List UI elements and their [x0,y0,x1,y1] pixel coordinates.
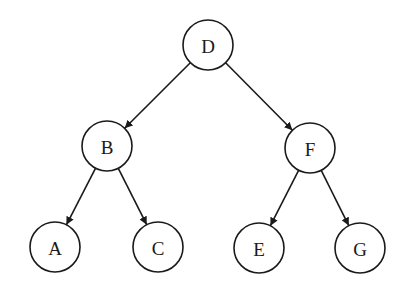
node-f-label: F [305,139,316,160]
tree-svg: D B F A C E G [0,0,412,289]
edge-d-b [125,63,191,129]
edge-f-e [270,170,298,225]
edge-d-f [226,63,293,130]
nodes-layer: D B F A C E G [30,20,385,273]
node-g-label: G [353,239,367,260]
edge-f-g [321,170,349,225]
node-e: E [234,223,284,273]
node-d-label: D [201,36,215,57]
node-a: A [30,222,80,272]
node-f: F [285,123,335,173]
node-b: B [82,121,132,171]
node-c: C [133,222,183,272]
node-g: G [335,223,385,273]
node-b-label: B [101,137,114,158]
edge-b-c [118,168,146,224]
node-d: D [183,20,233,70]
node-c-label: C [152,238,165,259]
node-e-label: E [253,239,265,260]
edge-b-a [66,168,95,225]
node-a-label: A [48,238,62,259]
tree-diagram: D B F A C E G [0,0,412,289]
